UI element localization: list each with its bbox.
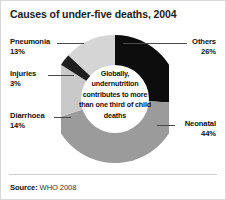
leader-line-diarrhoea (54, 117, 71, 118)
slice-label-pneumonia-name: Pneumonia (10, 37, 50, 46)
slice-label-diarrhoea-name: Diarrhoea (10, 111, 45, 120)
slice-label-neonatal: Neonatal 44% (185, 119, 216, 140)
slice-label-neonatal-name: Neonatal (185, 119, 216, 128)
slice-label-others-name: Others (192, 37, 216, 46)
slice-label-injuries-value: 3% (10, 79, 36, 89)
slice-label-diarrhoea: Diarrhoea 14% (10, 111, 45, 132)
slice-label-diarrhoea-value: 14% (10, 121, 45, 131)
slice-label-pneumonia: Pneumonia 13% (10, 37, 50, 58)
leader-line-others (123, 43, 187, 44)
center-annotation: Globally, undernutrition contributes to … (77, 69, 153, 121)
slice-label-neonatal-value: 44% (185, 129, 216, 139)
slice-label-pneumonia-value: 13% (10, 47, 50, 57)
leader-line-injuries (48, 75, 74, 76)
leader-line-neonatal (157, 125, 175, 126)
slice-label-others: Others 26% (192, 37, 216, 58)
slice-label-injuries: Injuries 3% (10, 69, 36, 90)
source-label: Source: (10, 183, 38, 192)
source-note: Source: WHO 2008 (10, 183, 76, 192)
footer-divider (9, 174, 217, 175)
chart-title: Causes of under-five deaths, 2004 (10, 8, 177, 20)
donut-plot-area: Globally, undernutrition contributes to … (1, 25, 225, 171)
chart-figure: Causes of under-five deaths, 2004 Global… (0, 0, 226, 200)
slice-label-others-value: 26% (192, 47, 216, 57)
source-value: WHO 2008 (40, 183, 77, 192)
slice-label-injuries-name: Injuries (10, 69, 36, 78)
leader-line-pneumonia (57, 43, 84, 44)
